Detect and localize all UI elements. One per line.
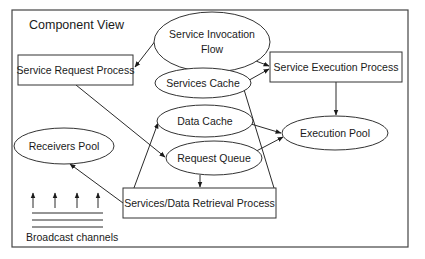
node-services-cache[interactable]: Services Cache bbox=[155, 68, 251, 98]
node-execution-pool[interactable]: Execution Pool bbox=[282, 116, 388, 150]
node-service-invocation-flow[interactable]: Service Invocation Flow bbox=[154, 12, 270, 72]
node-label: Service Request Process bbox=[17, 64, 135, 76]
diagram-title: Component View bbox=[29, 18, 125, 32]
node-label: Data Cache bbox=[177, 115, 233, 127]
node-label: Flow bbox=[201, 43, 224, 55]
node-label: Services Cache bbox=[166, 77, 240, 89]
node-request-queue[interactable]: Request Queue bbox=[166, 141, 262, 175]
node-services-data-retrieval-process[interactable]: Services/Data Retrieval Process bbox=[123, 188, 276, 218]
node-label: Services/Data Retrieval Process bbox=[124, 197, 275, 209]
node-label: Execution Pool bbox=[300, 127, 370, 139]
node-data-cache[interactable]: Data Cache bbox=[157, 105, 253, 137]
node-label: Request Queue bbox=[177, 152, 251, 164]
node-receivers-pool[interactable]: Receivers Pool bbox=[14, 128, 114, 164]
node-label: Receivers Pool bbox=[29, 140, 100, 152]
node-label: Service Invocation bbox=[169, 28, 255, 40]
node-service-execution-process[interactable]: Service Execution Process bbox=[270, 52, 402, 82]
node-service-request-process[interactable]: Service Request Process bbox=[17, 55, 135, 85]
component-view-diagram: Component View Service Invocation Flow S… bbox=[0, 0, 425, 259]
node-label: Service Execution Process bbox=[274, 61, 399, 73]
broadcast-channels-label: Broadcast channels bbox=[26, 231, 118, 243]
